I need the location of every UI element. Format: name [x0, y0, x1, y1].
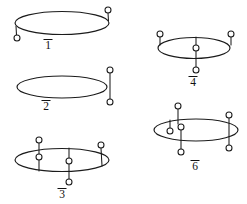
strand-left-stem [16, 26, 17, 35]
endpoint-upper-node [107, 67, 113, 73]
endpoint-bottom-center-node [66, 179, 72, 185]
endpoint-center-node [193, 45, 199, 51]
loop-ellipse [17, 76, 107, 98]
figure-label-2: 2 [43, 100, 49, 112]
diagram-layer: 12346 [14, 7, 238, 200]
endpoint-bottom-center-node [178, 149, 184, 155]
endpoint-top-left-node [157, 31, 163, 37]
loop-ellipse [15, 12, 109, 35]
loop-ellipse [15, 149, 109, 172]
diagram-group-3: 3 [15, 137, 109, 200]
endpoint-top-center-node [175, 103, 181, 109]
endpoint-upper-right-node [105, 7, 111, 13]
diagram-group-6: 6 [154, 103, 238, 172]
endpoint-lower-left-node [14, 35, 20, 41]
endpoint-left-inner-node [167, 128, 173, 134]
strand-right-stem [108, 13, 109, 21]
diagram-canvas: 12346 [0, 0, 247, 204]
figure-label-1: 1 [45, 39, 51, 51]
endpoint-right-top-node [226, 112, 232, 118]
strand-right-stem [101, 148, 102, 166]
diagram-svg: 12346 [0, 0, 247, 204]
diagram-group-1: 1 [14, 7, 111, 51]
figure-label-6: 6 [192, 160, 198, 172]
endpoint-right-bottom-node [226, 145, 232, 151]
endpoint-mid-center-node [66, 158, 72, 164]
endpoint-top-right-node [98, 142, 104, 148]
endpoint-lower-node [107, 99, 113, 105]
endpoint-mid-inner-node [178, 124, 184, 130]
diagram-group-2: 2 [17, 67, 113, 112]
figure-label-3: 3 [59, 188, 65, 200]
endpoint-top-left-node [36, 137, 42, 143]
loop-ellipse [154, 119, 238, 141]
endpoint-top-right-node [228, 31, 234, 37]
diagram-group-4: 4 [157, 31, 234, 88]
endpoint-mid-left-node [36, 154, 42, 160]
endpoint-bottom-center-node [193, 67, 199, 73]
figure-label-4: 4 [190, 76, 196, 88]
